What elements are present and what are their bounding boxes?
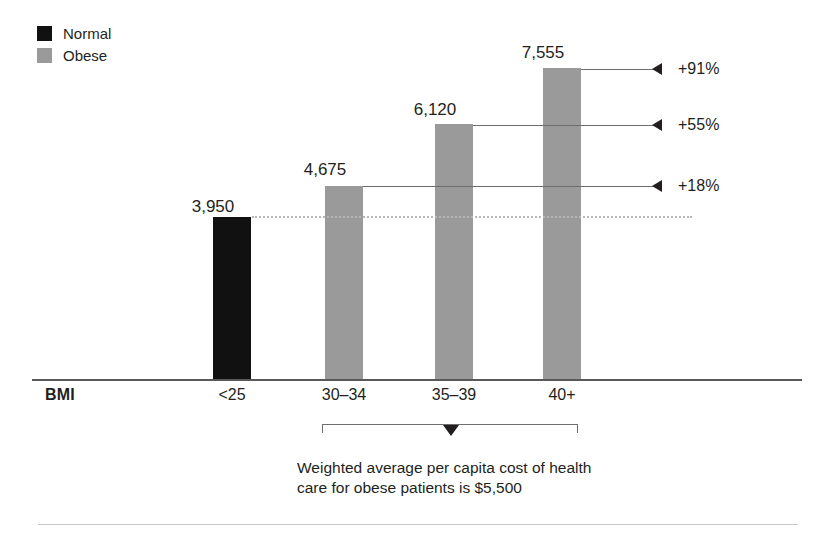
x-axis-line xyxy=(32,379,802,381)
x-axis-tick-30-34: 30–34 xyxy=(294,386,394,404)
bar-value-label-1: 3,950 xyxy=(168,197,258,217)
callout-arrow-left-icon-18 xyxy=(652,180,662,192)
callout-line-55 xyxy=(473,125,659,126)
callout-label-91: +91% xyxy=(678,60,719,78)
x-axis-tick-40plus: 40+ xyxy=(512,386,612,404)
bar-value-label-2: 4,675 xyxy=(280,160,370,180)
bar-obese-40plus[interactable] xyxy=(543,68,581,379)
weighted-average-note: Weighted average per capita cost of heal… xyxy=(297,458,607,498)
bar-normal-lt25[interactable] xyxy=(213,217,251,379)
callout-label-18: +18% xyxy=(678,177,719,195)
bar-obese-30-34[interactable] xyxy=(325,186,363,379)
x-axis-tick-lt25: <25 xyxy=(182,386,282,404)
chart-root: Normal Obese 3,950 4,675 6,120 7,555 +91… xyxy=(0,0,835,536)
plot-area: 3,950 4,675 6,120 7,555 +91% +55% +18% B… xyxy=(0,0,835,536)
bracket-pointer-down-icon xyxy=(443,425,459,436)
callout-line-18 xyxy=(363,186,659,187)
callout-arrow-left-icon-91 xyxy=(652,63,662,75)
bar-value-label-3: 6,120 xyxy=(390,100,480,120)
callout-line-91 xyxy=(581,69,659,70)
callout-arrow-left-icon-55 xyxy=(652,119,662,131)
bottom-divider xyxy=(38,524,798,525)
bar-obese-35-39[interactable] xyxy=(435,124,473,379)
callout-label-55: +55% xyxy=(678,116,719,134)
bar-value-label-4: 7,555 xyxy=(498,43,588,63)
x-axis-title: BMI xyxy=(45,386,75,404)
x-axis-tick-35-39: 35–39 xyxy=(404,386,504,404)
reference-line-normal-baseline xyxy=(252,216,692,218)
